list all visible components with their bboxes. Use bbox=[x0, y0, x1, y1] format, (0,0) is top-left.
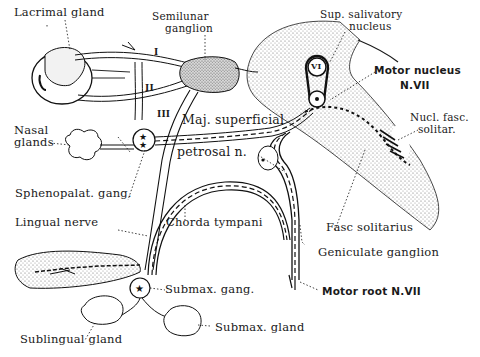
label-petrosal-n: petrosal n. bbox=[177, 145, 247, 158]
numeral-cranial-nerve-I: I bbox=[154, 48, 158, 57]
svg-text:★: ★ bbox=[139, 140, 147, 150]
label-fasc-solitarius: Fasc solitarius bbox=[326, 221, 413, 233]
maxillary-branch bbox=[135, 62, 142, 120]
label-sphenopalat-gang: Sphenopalat. gang. bbox=[15, 187, 132, 199]
label-nucl-fasc-line2: solitar. bbox=[418, 124, 456, 135]
label-lingual-nerve: Lingual nerve bbox=[15, 216, 98, 228]
label-geniculate-ganglion: Geniculate ganglion bbox=[318, 246, 439, 258]
label-chorda-tympani: Chorda tympani bbox=[166, 216, 263, 228]
label-nucl-fasc-line1: Nucl. fasc. bbox=[410, 112, 469, 123]
numeral-cranial-nerve-III: III bbox=[157, 110, 170, 119]
numeral-cranial-nerve-II: II bbox=[145, 84, 154, 93]
label-submax-gland: Submax. gland bbox=[215, 321, 304, 333]
sublingual-gland-shape bbox=[81, 296, 123, 324]
tongue bbox=[15, 251, 140, 288]
semilunar-ganglion-shape bbox=[180, 57, 239, 93]
label-motor-root: Motor root N.VII bbox=[322, 286, 421, 297]
nasal-glands bbox=[66, 129, 102, 159]
submax-gland-shape bbox=[164, 306, 201, 336]
sphenopalatine-ganglion: ★ ★ bbox=[133, 129, 155, 151]
facial-nerve-trunk bbox=[258, 132, 299, 280]
label-motor-nucleus-line2: N.VII bbox=[400, 80, 430, 91]
label-sup-salivatory-line2: nucleus bbox=[349, 21, 392, 32]
submaxillary-ganglion: ★ bbox=[130, 278, 150, 298]
label-motor-nucleus-line1: Motor nucleus bbox=[374, 65, 461, 76]
label-submax-gang: Submax. gang. bbox=[165, 283, 254, 295]
label-sublingual-gland: Sublingual gland bbox=[20, 333, 122, 345]
label-sup-salivatory-line1: Sup. salivatory bbox=[320, 9, 402, 20]
label-lacrimal-gland: Lacrimal gland bbox=[14, 6, 105, 18]
label-semilunar-ganglion-line2: ganglion bbox=[165, 23, 213, 34]
facial-nerve-diagram: ★ ★ ★ bbox=[0, 0, 480, 357]
label-nasal-glands-line2: glands bbox=[14, 136, 54, 148]
numeral-cranial-nerve-VI: VI bbox=[311, 62, 321, 70]
svg-text:★: ★ bbox=[135, 283, 144, 294]
label-maj-superficial: Maj. superficial bbox=[182, 113, 284, 126]
label-semilunar-ganglion-line1: Semilunar bbox=[152, 11, 209, 22]
